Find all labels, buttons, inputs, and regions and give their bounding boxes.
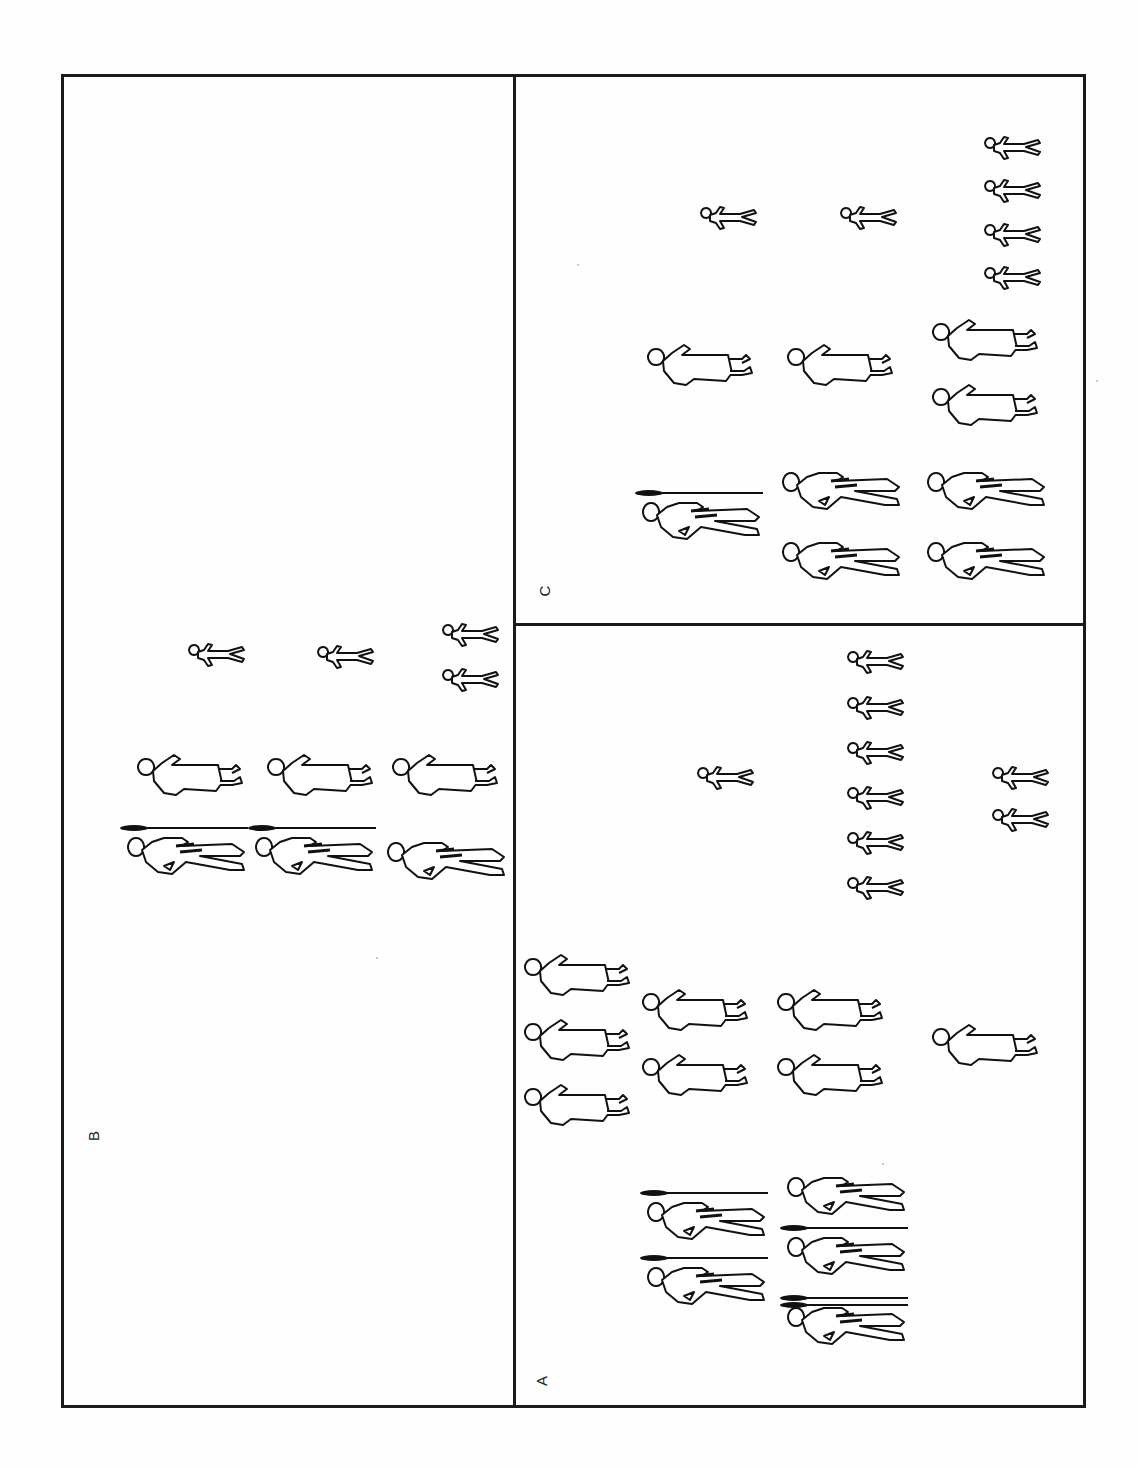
warrior-with-spear-icon (120, 822, 250, 878)
child-figure-icon (836, 203, 900, 233)
child-figure-icon (980, 133, 1044, 163)
woman-figure-icon (519, 951, 635, 999)
panel-divider-vertical (513, 74, 516, 1408)
woman-figure-icon (927, 381, 1043, 429)
child-figure-icon (980, 220, 1044, 250)
child-figure-icon (843, 873, 907, 903)
warrior-with-spear-icon (248, 822, 378, 878)
warrior-figure-icon (920, 457, 1050, 513)
warrior-with-spear-icon (640, 1187, 770, 1243)
child-figure-icon (843, 738, 907, 768)
child-figure-icon (988, 763, 1052, 793)
warrior-figure-icon (775, 527, 905, 583)
warrior-with-spear-icon (640, 1252, 770, 1308)
woman-figure-icon (519, 1081, 635, 1129)
woman-figure-icon (782, 341, 898, 389)
child-figure-icon (184, 640, 248, 670)
scan-speck (882, 1163, 884, 1165)
scan-speck (577, 264, 579, 266)
woman-figure-icon (637, 986, 753, 1034)
woman-figure-icon (642, 341, 758, 389)
outer-frame (61, 74, 1086, 1408)
child-figure-icon (843, 647, 907, 677)
warrior-figure-icon (780, 1162, 910, 1218)
scan-speck (376, 957, 378, 959)
child-figure-icon (980, 176, 1044, 206)
warrior-figure-icon (775, 457, 905, 513)
woman-figure-icon (637, 1051, 753, 1099)
woman-figure-icon (927, 316, 1043, 364)
child-figure-icon (988, 805, 1052, 835)
woman-figure-icon (262, 751, 378, 799)
woman-figure-icon (132, 751, 248, 799)
warrior-with-spear-icon (780, 1292, 910, 1348)
panel-label-b: B (84, 1126, 104, 1146)
child-figure-icon (843, 783, 907, 813)
scan-speck (1096, 380, 1098, 382)
panel-label-c: C (535, 581, 555, 601)
warrior-figure-icon (920, 527, 1050, 583)
woman-figure-icon (927, 1021, 1043, 1069)
child-figure-icon (313, 642, 377, 672)
woman-figure-icon (519, 1016, 635, 1064)
child-figure-icon (843, 828, 907, 858)
child-figure-icon (843, 693, 907, 723)
woman-figure-icon (387, 751, 503, 799)
panel-divider-horizontal (513, 623, 1086, 626)
figure-page: B A C (0, 0, 1138, 1468)
woman-figure-icon (772, 986, 888, 1034)
warrior-figure-icon (380, 827, 510, 883)
warrior-with-spear-icon (780, 1222, 910, 1278)
child-figure-icon (696, 203, 760, 233)
warrior-with-spear-icon (635, 487, 765, 543)
child-figure-icon (438, 620, 502, 650)
child-figure-icon (693, 763, 757, 793)
panel-label-a: A (532, 1371, 552, 1391)
child-figure-icon (980, 263, 1044, 293)
child-figure-icon (438, 665, 502, 695)
woman-figure-icon (772, 1051, 888, 1099)
